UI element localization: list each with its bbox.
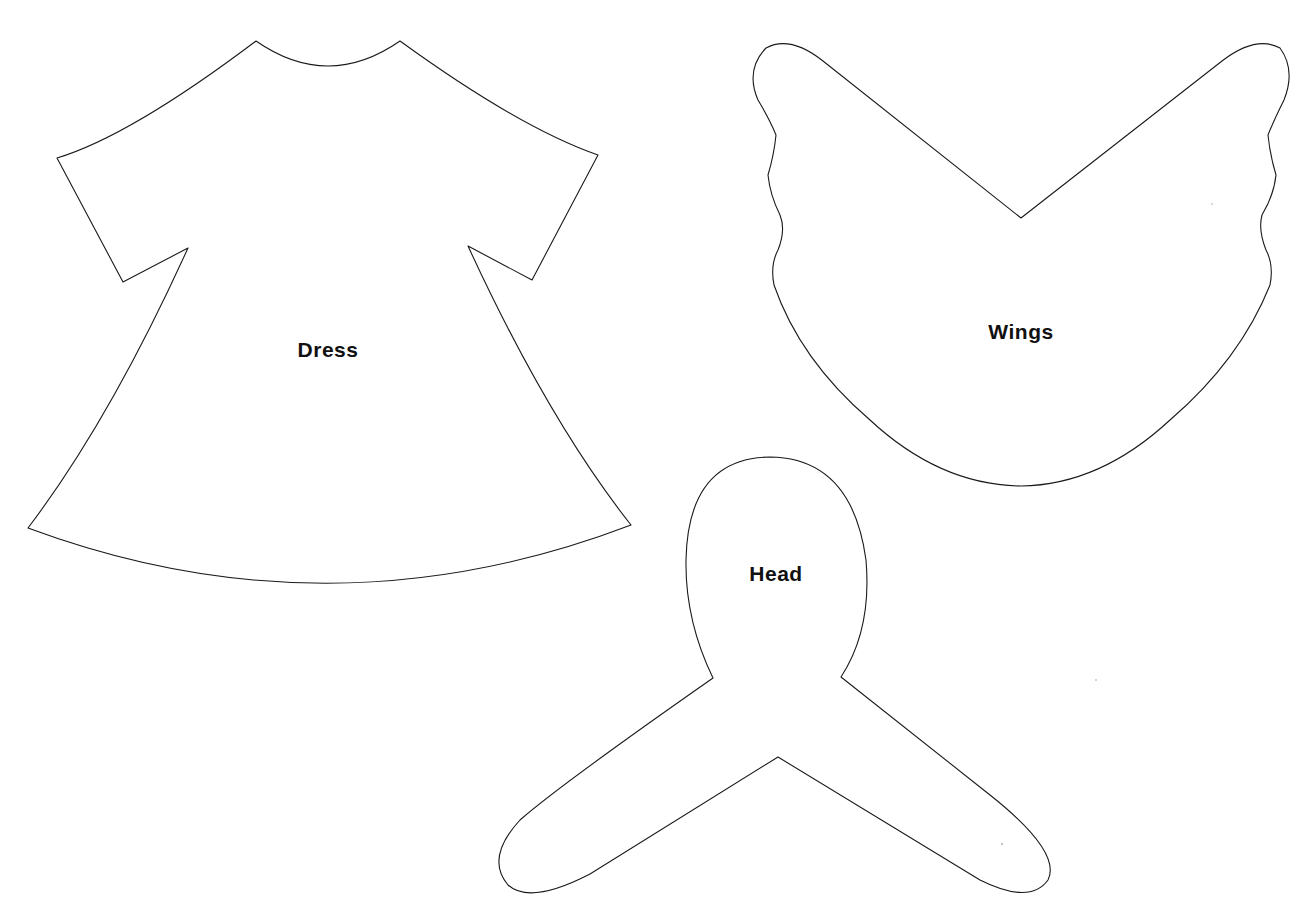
dress-outline [28,41,631,583]
wings-piece: Wings [753,44,1289,486]
scan-speck [1001,843,1004,846]
wings-outline [753,44,1289,486]
scan-speck [1095,679,1097,681]
dress-label: Dress [298,338,359,361]
template-sheet: Dress Wings Head [0,0,1310,919]
head-label: Head [749,562,802,585]
scan-speck [1211,203,1213,205]
wings-label: Wings [988,320,1053,343]
dress-piece: Dress [28,41,631,583]
